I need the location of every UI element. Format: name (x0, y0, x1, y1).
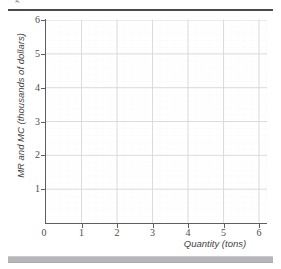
x-tick-label: 0 (36, 227, 52, 238)
y-tick-mark (41, 155, 46, 156)
x-tick-label: 3 (145, 227, 161, 238)
x-tick-label: 2 (109, 227, 125, 238)
y-tick-label-text: 4 (26, 83, 40, 93)
top-rule-divider (8, 9, 273, 11)
y-tick-label-text: 6 (26, 15, 40, 25)
y-tick-label-text: 5 (26, 49, 40, 59)
y-tick-mark (41, 54, 46, 55)
figure-panel: g (0, 0, 281, 269)
x-axis-title: Quantity (tons) (160, 238, 270, 249)
y-axis-title: MR and MC (thousands of dollars) (15, 16, 26, 196)
x-tick-label: 5 (216, 227, 232, 238)
plot-area (46, 20, 267, 223)
bottom-rule-bar (8, 256, 273, 263)
x-tick-label: 4 (180, 227, 196, 238)
y-tick-mark (41, 20, 46, 21)
clipped-text-glyph: g (15, 0, 25, 3)
grid-lines (46, 20, 267, 223)
x-tick-label: 6 (251, 227, 267, 238)
y-tick-label-text: 1 (26, 184, 40, 194)
y-tick-mark (41, 189, 46, 190)
y-tick-label-text: 3 (26, 117, 40, 127)
y-tick-mark (41, 88, 46, 89)
x-tick-label: 1 (74, 227, 90, 238)
x-axis-line (45, 223, 267, 224)
y-tick-label-text: 2 (26, 150, 40, 160)
y-tick-mark (41, 122, 46, 123)
